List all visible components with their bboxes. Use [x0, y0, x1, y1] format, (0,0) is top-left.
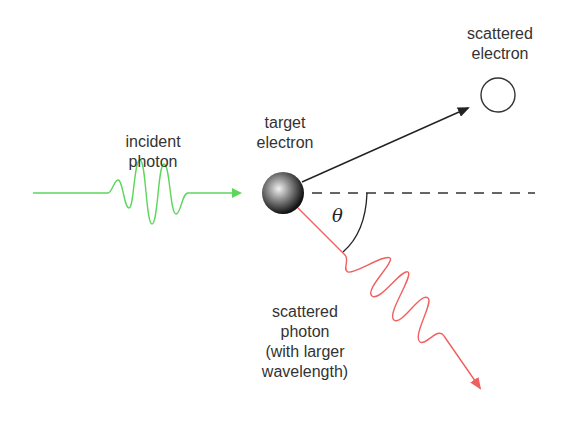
scattered-photon-label: scattered photon (with larger wavelength…: [240, 302, 370, 382]
scattered-electron-label: scattered electron: [450, 24, 550, 64]
target-electron-ball: [262, 172, 304, 214]
theta-label: θ: [332, 205, 343, 226]
scattered-electron-circle: [481, 78, 515, 112]
target-electron-label: target electron: [240, 113, 330, 153]
angle-arc: [343, 193, 367, 252]
incident-photon-label: incident photon: [108, 132, 198, 172]
